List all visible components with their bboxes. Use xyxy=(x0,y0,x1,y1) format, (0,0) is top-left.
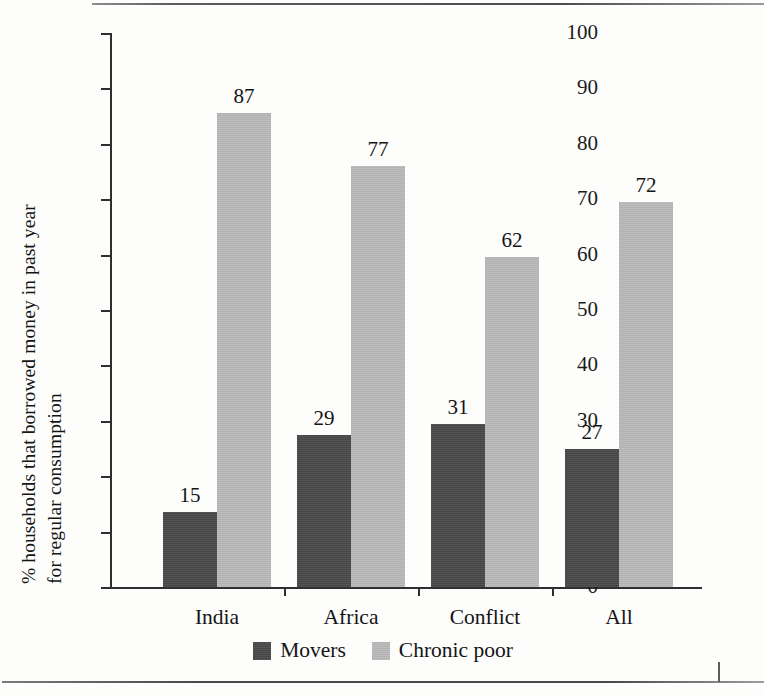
legend-label: Movers xyxy=(280,638,346,663)
y-axis-tick xyxy=(101,144,110,146)
y-axis-tick xyxy=(101,476,110,478)
y-axis-tick xyxy=(101,532,110,534)
plot-area: 0102030405060708090100 1587297731622772 … xyxy=(110,33,710,587)
bar-all-movers xyxy=(565,449,619,588)
page-bottom-rule xyxy=(2,681,764,683)
bar-value-label: 72 xyxy=(605,175,687,196)
x-axis-tick xyxy=(418,587,420,596)
x-axis-line xyxy=(110,587,702,589)
y-axis-tick xyxy=(101,33,110,35)
chart-legend: MoversChronic poor xyxy=(0,638,766,663)
x-axis-tick xyxy=(552,587,554,596)
y-axis-tick-label: 70 xyxy=(552,188,598,209)
y-axis-tick xyxy=(101,310,110,312)
bar-africa-movers xyxy=(297,435,351,587)
bar-india-movers xyxy=(163,512,217,587)
y-axis-tick-label: 100 xyxy=(552,22,598,43)
legend-item-movers[interactable]: Movers xyxy=(253,638,346,663)
page-corner-rule xyxy=(718,662,720,682)
y-axis-tick-label: 90 xyxy=(552,77,598,98)
bar-conflict-chronic-poor xyxy=(485,257,539,587)
bar-india-chronic-poor xyxy=(217,113,271,587)
bar-value-label: 87 xyxy=(203,86,285,107)
y-axis-tick-label: 80 xyxy=(552,133,598,154)
y-axis-tick-label: 50 xyxy=(552,299,598,320)
y-axis-tick-label: 40 xyxy=(552,354,598,375)
bar-value-label: 62 xyxy=(471,230,553,251)
y-axis-tick xyxy=(101,365,110,367)
y-axis-tick xyxy=(101,199,110,201)
legend-label: Chronic poor xyxy=(399,638,513,663)
y-axis-label-line-2: for regular consumption xyxy=(44,393,66,584)
y-axis-label: % households that borrowed money in past… xyxy=(0,0,92,600)
bar-all-chronic-poor xyxy=(619,202,673,587)
y-axis-tick-label: 60 xyxy=(552,244,598,265)
y-axis-line xyxy=(110,33,112,589)
page-top-rule xyxy=(92,3,764,5)
y-axis-tick xyxy=(101,421,110,423)
y-axis-label-line-1: % households that borrowed money in past… xyxy=(18,204,40,584)
bar-conflict-movers xyxy=(431,424,485,587)
y-axis-tick xyxy=(101,587,110,589)
y-axis-tick xyxy=(101,88,110,90)
legend-swatch-icon xyxy=(372,642,390,660)
bar-africa-chronic-poor xyxy=(351,166,405,587)
bar-value-label: 77 xyxy=(337,139,419,160)
x-axis-label-all: All xyxy=(535,605,703,630)
y-axis-tick xyxy=(101,255,110,257)
chart-page: % households that borrowed money in past… xyxy=(0,0,766,695)
legend-item-chronic-poor[interactable]: Chronic poor xyxy=(372,638,513,663)
legend-swatch-icon xyxy=(253,642,271,660)
x-axis-tick xyxy=(284,587,286,596)
